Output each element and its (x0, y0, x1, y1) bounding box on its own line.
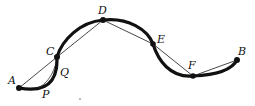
point-E (150, 41, 156, 47)
label-C: C (46, 45, 55, 58)
diagram-svg: A C D E F B Q P (0, 0, 255, 106)
label-P: P (41, 88, 50, 101)
point-A (16, 85, 22, 91)
point-C (54, 54, 60, 60)
label-D: D (97, 4, 107, 17)
point-D (100, 17, 106, 23)
label-A: A (7, 74, 16, 87)
point-F (190, 73, 196, 79)
label-F: F (187, 59, 196, 72)
chord-CD (57, 20, 103, 57)
curve-diagram: A C D E F B Q P (0, 0, 255, 106)
points (16, 17, 240, 100)
label-E: E (156, 33, 165, 46)
stray-dot (79, 98, 81, 100)
label-B: B (237, 45, 246, 58)
label-Q: Q (60, 66, 69, 79)
